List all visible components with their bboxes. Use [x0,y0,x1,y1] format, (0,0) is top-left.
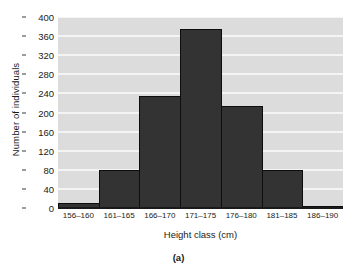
y-tick-mark [22,36,26,37]
y-tick-mark [22,93,26,94]
x-tick-label: 161–165 [99,211,140,220]
y-axis-tick-labels: 04080120160200240280320360400 [26,17,54,208]
y-tick-label: 280 [38,69,54,80]
y-tick-label: 320 [38,50,54,61]
y-axis-title: Number of individuals [6,0,26,218]
y-tick-label: 240 [38,88,54,99]
x-axis-line [58,207,343,209]
bar [99,170,141,208]
y-tick-label: 40 [43,183,54,194]
x-tick-label: 156–160 [58,211,99,220]
y-tick-mark [22,208,26,209]
plot-area [58,17,343,208]
x-axis-title: Height class (cm) [58,229,343,240]
y-tick-mark [22,17,26,18]
bar [139,96,181,208]
y-tick-label: 120 [38,145,54,156]
y-tick-mark [22,112,26,113]
x-tick-label: 176–180 [221,211,262,220]
y-tick-label: 80 [43,164,54,175]
x-tick-label: 171–175 [180,211,221,220]
y-tick-mark [22,55,26,56]
x-tick-label: 181–185 [262,211,303,220]
y-tick-mark [22,74,26,75]
y-tick-mark [22,188,26,189]
y-tick-label: 360 [38,31,54,42]
y-axis-title-text: Number of individuals [11,62,22,155]
figure-caption: (a) [0,252,357,263]
x-tick-label: 166–170 [139,211,180,220]
y-tick-mark [22,169,26,170]
bar [262,170,304,208]
y-tick-label: 200 [38,107,54,118]
y-tick-mark [22,131,26,132]
y-tick-label: 400 [38,12,54,23]
y-tick-mark [22,150,26,151]
histogram-figure: Number of individuals 040801201602002402… [0,0,357,276]
x-axis-tick-labels: 156–160161–165166–170171–175176–180181–1… [58,211,343,220]
y-tick-label: 0 [49,203,54,214]
bar [221,106,263,208]
x-tick-label: 186–190 [302,211,343,220]
bar [180,29,222,208]
y-tick-label: 160 [38,126,54,137]
bar-series [58,17,343,208]
